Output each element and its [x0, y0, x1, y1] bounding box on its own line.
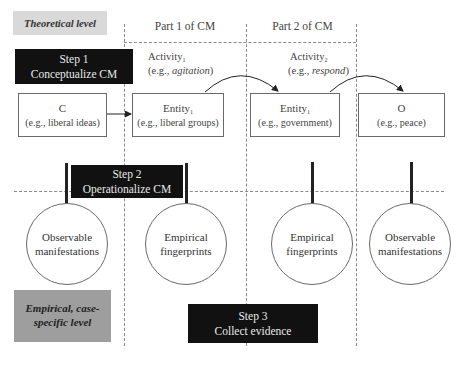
observable-manifestations-circle-right: Observable manifestations — [369, 203, 451, 285]
step3-subtitle: Collect evidence — [215, 324, 292, 338]
connector-bar-1 — [65, 163, 68, 204]
step3-title: Step 3 — [238, 309, 267, 323]
observable-manifestations-circle-left: Observable manifestations — [26, 203, 108, 285]
connector-bar-2 — [185, 163, 188, 204]
cause-node: C (e.g., liberal ideas) — [18, 93, 107, 137]
outcome-example: (e.g., peace) — [377, 116, 426, 129]
entity2-node: Entity1 (e.g., government) — [250, 93, 340, 137]
outcome-label: O — [398, 101, 406, 115]
arrow-entity1-to-entity2 — [205, 76, 278, 92]
entity1-node: Entity1 (e.g., liberal groups) — [132, 93, 224, 137]
entity2-example: (e.g., government) — [258, 116, 332, 129]
cause-label: C — [59, 101, 66, 115]
cause-example: (e.g., liberal ideas) — [25, 116, 100, 129]
entity1-example: (e.g., liberal groups) — [137, 116, 218, 129]
step2-subtitle: Operationalize CM — [83, 182, 171, 196]
step2-title: Step 2 — [112, 167, 141, 181]
connector-bar-3 — [311, 162, 314, 204]
step3-box: Step 3 Collect evidence — [188, 304, 318, 343]
empirical-fingerprints-circle-1: Empirical fingerprints — [145, 203, 227, 285]
arrow-entity2-to-outcome — [330, 76, 403, 92]
entity2-label: Entity — [280, 102, 307, 114]
entity1-label: Entity — [163, 102, 190, 114]
outcome-node: O (e.g., peace) — [358, 93, 445, 137]
empirical-fingerprints-circle-2: Empirical fingerprints — [271, 203, 353, 285]
step2-box: Step 2 Operationalize CM — [71, 165, 183, 198]
connector-bar-4 — [410, 162, 413, 204]
